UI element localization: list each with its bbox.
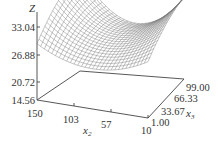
z-ticks: 33.04 26.88 20.72 14.56 Z: [11, 2, 40, 106]
x2-tick-label: 10: [141, 125, 152, 136]
x3-tick-label: 1.00: [151, 117, 169, 128]
x2-tick-label: 103: [63, 114, 79, 125]
x3-tick-label: 33.67: [161, 106, 185, 117]
x2-axis-title: x2: [82, 124, 92, 138]
x2-axis-line: [37, 100, 148, 118]
z-tick-label: 26.88: [11, 50, 35, 61]
x3-tick-label: 99.00: [186, 82, 210, 93]
x2-tick-label: 57: [101, 119, 112, 130]
wireframe-surface: [37, 0, 191, 70]
x3-axis-title: x3: [185, 107, 195, 121]
z-axis-title: Z: [29, 2, 36, 14]
back-left-edge: [37, 71, 80, 100]
z-tick-label: 33.04: [11, 22, 35, 33]
x2-tick-label: 150: [27, 108, 43, 119]
x3-tick-label: 66.33: [174, 93, 198, 104]
z-tick-label: 20.72: [11, 77, 35, 88]
z-tick-label: 14.56: [11, 95, 35, 106]
surface-plot: 33.04 26.88 20.72 14.56 Z 150 103 57 10 …: [0, 0, 218, 148]
back-edge: [80, 71, 184, 79]
